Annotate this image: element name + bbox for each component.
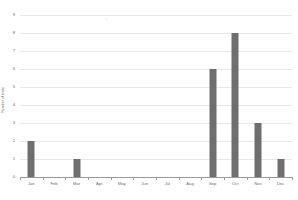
y-axis-tick-label: 1 — [13, 157, 15, 161]
bar — [28, 141, 35, 177]
bar — [73, 159, 80, 177]
x-axis-tick-label: Apr — [96, 182, 103, 186]
x-axis-tick-label: Nov — [254, 182, 261, 186]
bar — [254, 123, 261, 177]
bar-slot — [88, 15, 111, 177]
x-axis-tick — [133, 177, 134, 180]
x-axis-tick-label: Jun — [141, 182, 148, 186]
bar — [209, 69, 216, 177]
y-axis-tick-label: 3 — [13, 121, 15, 125]
bar-slot — [133, 15, 156, 177]
plot-area — [20, 15, 292, 177]
bar-slot — [201, 15, 224, 177]
bar-slot — [156, 15, 179, 177]
y-axis-tick-label: 5 — [13, 85, 15, 89]
x-axis-tick-label: Jul — [165, 182, 170, 186]
bar-slot — [111, 15, 134, 177]
y-axis-tick-label: 6 — [13, 67, 15, 71]
x-axis-tick — [111, 177, 112, 180]
x-axis-tick — [269, 177, 270, 180]
artifact-speck — [106, 19, 107, 20]
bar-slot — [43, 15, 66, 177]
bar-slot — [247, 15, 270, 177]
bar-slot — [269, 15, 292, 177]
bar — [277, 159, 284, 177]
x-axis-tick — [292, 177, 293, 180]
x-axis-tick-label: Dec — [277, 182, 284, 186]
x-axis-tick — [88, 177, 89, 180]
y-axis-title: Number of birds — [2, 77, 6, 123]
x-axis-tick — [224, 177, 225, 180]
x-axis-tick — [201, 177, 202, 180]
x-axis-tick — [156, 177, 157, 180]
x-axis-tick-label: Oct — [232, 182, 239, 186]
x-axis-tick-label: Jan — [28, 182, 35, 186]
x-axis-tick — [179, 177, 180, 180]
y-axis-tick-label: 4 — [13, 103, 15, 107]
x-axis-tick — [20, 177, 21, 180]
x-axis: JanFebMarAprMayJunJulAugSepOctNovDec — [20, 177, 292, 197]
bar-slot — [20, 15, 43, 177]
x-axis-tick-label: Mar — [73, 182, 80, 186]
bar-series — [20, 15, 292, 177]
bar-slot — [65, 15, 88, 177]
x-axis-tick-label: Aug — [186, 182, 193, 186]
y-axis-tick-label: 9 — [13, 13, 15, 17]
x-axis-tick-label: Feb — [50, 182, 57, 186]
bar-chart: 0123456789 Number of birds JanFebMarAprM… — [0, 0, 298, 200]
y-axis-tick-label: 0 — [13, 175, 15, 179]
y-axis-tick-label: 7 — [13, 49, 15, 53]
x-axis-tick — [247, 177, 248, 180]
bar — [232, 33, 239, 177]
y-axis-tick-label: 8 — [13, 31, 15, 35]
x-axis-tick — [43, 177, 44, 180]
bar-slot — [179, 15, 202, 177]
y-axis-tick-label: 2 — [13, 139, 15, 143]
x-axis-tick-label: May — [118, 182, 126, 186]
x-axis-tick-label: Sep — [209, 182, 216, 186]
x-axis-tick — [65, 177, 66, 180]
bar-slot — [224, 15, 247, 177]
